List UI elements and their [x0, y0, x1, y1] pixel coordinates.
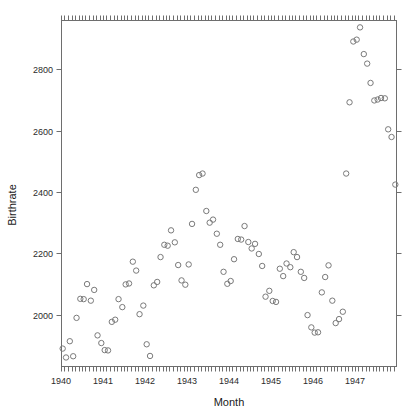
y-tick-label: 2200 — [33, 249, 53, 259]
x-axis-label: Month — [214, 396, 245, 408]
scatter-plot-figure: 19401941194219431944194519461947 2000220… — [0, 0, 417, 418]
birthrate-scatter-chart: 19401941194219431944194519461947 2000220… — [0, 0, 417, 418]
x-tick-label: 1945 — [261, 376, 281, 386]
x-tick-label: 1944 — [219, 376, 239, 386]
x-tick-label: 1943 — [177, 376, 197, 386]
x-tick-label: 1942 — [135, 376, 155, 386]
y-axis-label: Birthrate — [6, 184, 18, 226]
x-tick-label: 1946 — [303, 376, 323, 386]
x-tick-label: 1941 — [93, 376, 113, 386]
x-tick-label: 1940 — [51, 376, 71, 386]
x-tick-label: 1947 — [345, 376, 365, 386]
y-tick-label: 2000 — [33, 311, 53, 321]
y-tick-label: 2800 — [33, 65, 53, 75]
y-tick-label: 2400 — [33, 188, 53, 198]
y-tick-label: 2600 — [33, 127, 53, 137]
